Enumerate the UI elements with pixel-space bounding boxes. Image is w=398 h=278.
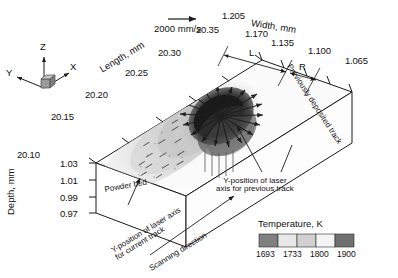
width-tick-3: 1.100 bbox=[308, 46, 331, 56]
laser-axis-previous-line2: axis for previous track bbox=[216, 185, 294, 193]
length-tick-3: 20.20 bbox=[85, 90, 108, 100]
length-tick-1: 20.30 bbox=[158, 48, 181, 58]
colorbar-tick-2: 1800 bbox=[310, 250, 329, 259]
axes-triad bbox=[17, 57, 69, 88]
axis-z-label: Z bbox=[40, 42, 46, 52]
depth-axis bbox=[89, 163, 96, 213]
dimension-l-label: L bbox=[249, 48, 254, 58]
colorbar-tick-3: 1900 bbox=[337, 250, 356, 259]
colorbar-title: Temperature, K bbox=[258, 219, 323, 229]
dimension-r-label: R bbox=[299, 62, 306, 72]
depth-axis-title: Depth, mm bbox=[6, 169, 16, 215]
width-tick-4: 1.065 bbox=[345, 56, 368, 66]
depth-tick-0: 1.03 bbox=[60, 159, 78, 169]
depth-tick-3: 0.97 bbox=[60, 209, 78, 219]
colorbar-tick-1: 1733 bbox=[283, 250, 302, 259]
length-tick-4: 20.15 bbox=[51, 112, 74, 122]
width-tick-0: 1.205 bbox=[222, 11, 245, 21]
length-tick-5: 20.10 bbox=[17, 150, 40, 160]
colorbar-tick-0: 1693 bbox=[256, 250, 275, 259]
depth-tick-1: 1.01 bbox=[60, 176, 78, 186]
velocity-scale-label: 2000 mm/s bbox=[154, 24, 201, 34]
axis-y-label: Y bbox=[6, 68, 12, 78]
axis-x-label: X bbox=[70, 62, 76, 72]
temperature-colorbar bbox=[259, 234, 354, 247]
width-tick-2: 1.135 bbox=[271, 38, 294, 48]
length-tick-0: 20.35 bbox=[196, 25, 219, 35]
laser-axis-previous-annotation: Y-position of laser axis for previous tr… bbox=[216, 177, 294, 194]
length-tick-2: 20.25 bbox=[125, 68, 148, 78]
width-tick-1: 1.170 bbox=[245, 29, 268, 39]
depth-tick-2: 0.99 bbox=[60, 193, 78, 203]
